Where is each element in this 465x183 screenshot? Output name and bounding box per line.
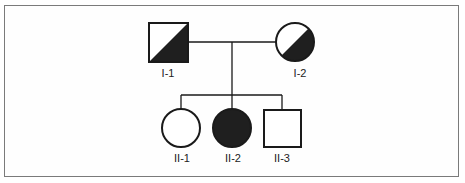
female-circle-symbol: [162, 109, 200, 147]
pedigree-chart: I-1 I-2 II-1 II-2 II-3: [0, 0, 465, 183]
individual-ii-2: II-2: [213, 109, 251, 164]
individual-ii-3: II-3: [264, 110, 301, 164]
female-circle-affected-symbol: [213, 109, 251, 147]
individual-label: II-2: [225, 152, 241, 164]
individual-i-2: I-2: [274, 21, 316, 79]
individual-label: II-3: [274, 152, 290, 164]
male-square-symbol: [264, 110, 301, 147]
individual-ii-1: II-1: [162, 109, 200, 164]
individual-label: I-1: [162, 67, 175, 79]
individual-label: II-1: [174, 152, 190, 164]
individual-label: I-2: [294, 67, 307, 79]
individual-i-1: I-1: [149, 23, 188, 79]
